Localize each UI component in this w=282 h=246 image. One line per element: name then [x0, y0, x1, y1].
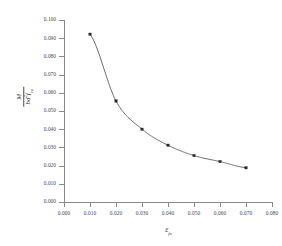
x-axis-title-subscript: fu: [168, 231, 172, 236]
series-markers: [89, 33, 247, 169]
denominator-b: b: [24, 101, 32, 105]
denominator-d: d: [24, 98, 32, 102]
denominator-f-subscript: cu: [29, 89, 34, 93]
denominator-d-exponent: 2: [23, 95, 28, 97]
data-point: [89, 33, 91, 35]
y-axis-title-denominator: bd2fcu: [24, 87, 33, 107]
data-point: [115, 100, 117, 102]
series-line: [90, 34, 246, 168]
data-point: [245, 167, 247, 169]
data-point: [167, 144, 169, 146]
data-point: [219, 160, 221, 162]
x-axis-title: εfu: [64, 225, 273, 234]
data-series: [0, 0, 282, 246]
y-axis-title-fraction: M bd2fcu: [15, 87, 33, 107]
data-point: [141, 128, 143, 130]
y-axis-title: M bd2fcu: [15, 67, 33, 127]
data-point: [193, 154, 195, 156]
chart-figure: 0.0000.0100.0200.0300.0400.0500.0600.070…: [0, 0, 282, 246]
